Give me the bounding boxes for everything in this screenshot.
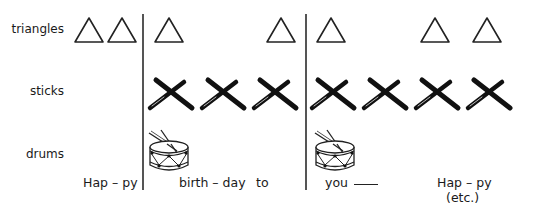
triangle-icon: [472, 16, 504, 44]
drum-icon: [313, 129, 359, 173]
lyric-you: you: [325, 175, 378, 190]
triangle-icon: [316, 16, 348, 44]
lyric-birth-day: birth – day: [179, 175, 246, 190]
triangle-icon: [74, 16, 106, 44]
drum-icon: [147, 129, 193, 173]
crossed-sticks-icon: [360, 76, 410, 112]
lyric-hap-py: Hap – py: [83, 175, 138, 190]
crossed-sticks-icon: [146, 76, 196, 112]
row-label-triangles: triangles: [4, 22, 64, 36]
lyric-hap-py-repeat: Hap – py: [437, 175, 492, 190]
crossed-sticks-icon: [198, 76, 248, 112]
lyric-you-text: you: [325, 175, 348, 190]
crossed-sticks-icon: [412, 76, 462, 112]
triangle-icon: [154, 16, 186, 44]
bar-line-2: [305, 14, 307, 190]
crossed-sticks-icon: [464, 76, 514, 112]
hold-line: [354, 184, 378, 185]
triangle-icon: [107, 16, 139, 44]
triangle-icon: [266, 16, 298, 44]
lyric-to: to: [256, 175, 269, 190]
row-label-drums: drums: [4, 147, 64, 161]
crossed-sticks-icon: [308, 76, 358, 112]
triangle-icon: [420, 16, 452, 44]
bar-line-1: [142, 14, 144, 190]
row-label-sticks: sticks: [4, 84, 64, 98]
crossed-sticks-icon: [250, 76, 300, 112]
lyric-etc: (etc.): [446, 190, 479, 205]
